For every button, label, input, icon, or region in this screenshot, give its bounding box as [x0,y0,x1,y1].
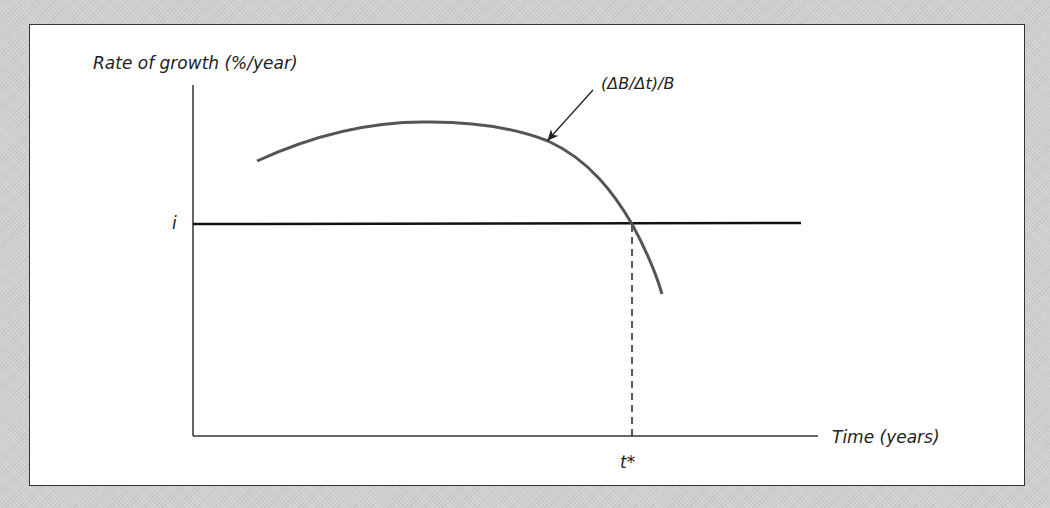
growth-rate-curve [257,122,662,294]
interest-rate-line [193,223,801,224]
curve-label-arrow [548,90,593,140]
x-axis-label: Time (years) [832,427,940,447]
y-axis-label: Rate of growth (%/year) [93,53,298,73]
i-label: i [172,213,177,233]
curve-label: (ΔB/Δt)/B [601,74,674,93]
t-star-label: t* [620,452,635,472]
